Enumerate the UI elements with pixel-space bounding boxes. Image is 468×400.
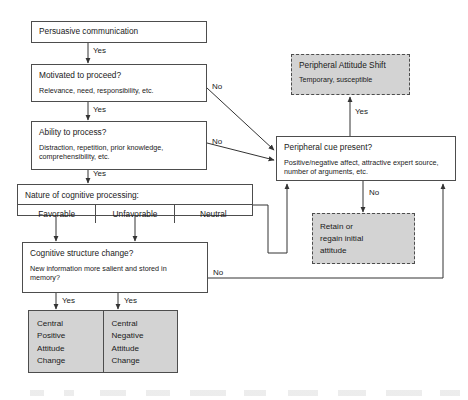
edge-label-yes-peripheral: Yes	[355, 107, 368, 116]
outcome-line: Central	[112, 318, 170, 330]
node-subtitle: Temporary, susceptible	[299, 75, 402, 84]
flowchart-canvas: Persuasive communication Motivated to pr…	[0, 0, 468, 400]
nature-cell-neutral: Neutral	[174, 205, 252, 223]
edge-label-yes-right-outcome: Yes	[124, 296, 137, 305]
edge-label-yes-1: Yes	[93, 46, 106, 55]
outcome-line: Change	[37, 355, 95, 367]
node-subtitle: New information more salient and stored …	[30, 264, 190, 282]
node-retain-or-regain-initial-attitude: Retain or regain initial attitude	[312, 213, 415, 264]
outcome-line: Change	[112, 355, 170, 367]
outcome-line: Attitude	[37, 343, 95, 355]
node-peripheral-attitude-shift: Peripheral Attitude Shift Temporary, sus…	[291, 54, 410, 95]
node-ability-to-process: Ability to process? Distraction, repetit…	[31, 121, 207, 170]
node-peripheral-cue-present: Peripheral cue present? Positive/negativ…	[276, 136, 456, 181]
edge-label-no-ability: No	[212, 137, 222, 146]
edge-label-no-cognitive: No	[213, 268, 223, 277]
retain-line: Retain or	[320, 221, 407, 233]
edge-label-no-peripheral: No	[369, 188, 379, 197]
nature-cell-favorable: Favorable	[18, 205, 95, 223]
node-nature-of-cognitive-processing: Nature of cognitive processing: Favorabl…	[17, 184, 253, 216]
node-title: Cognitive structure change?	[30, 248, 200, 258]
node-title: Ability to process?	[39, 127, 199, 137]
retain-line: attitude	[320, 245, 407, 257]
edge-label-yes-3: Yes	[93, 169, 106, 178]
edge-label-yes-left-outcome: Yes	[62, 296, 75, 305]
nature-cell-unfavorable: Unfavorable	[95, 205, 173, 223]
edge-label-no-motivated: No	[212, 82, 222, 91]
node-persuasive-communication: Persuasive communication	[31, 21, 207, 43]
outcome-line: Positive	[37, 330, 95, 342]
node-title: Peripheral Attitude Shift	[299, 60, 402, 70]
outcome-positive: Central Positive Attitude Change	[29, 311, 103, 372]
edge-neutral-to-peripheral	[253, 184, 287, 253]
node-title: Motivated to proceed?	[39, 70, 199, 80]
node-motivated-to-proceed: Motivated to proceed? Relevance, need, r…	[31, 64, 207, 102]
node-cognitive-structure-change: Cognitive structure change? New informat…	[22, 242, 208, 293]
retain-line: regain initial	[320, 233, 407, 245]
outcome-line: Central	[37, 318, 95, 330]
node-title: Persuasive communication	[39, 26, 199, 36]
node-central-attitude-outcomes: Central Positive Attitude Change Central…	[28, 310, 178, 373]
outcome-line: Negative	[112, 330, 170, 342]
node-subtitle: Positive/negative affect, attractive exp…	[284, 158, 448, 176]
node-title: Nature of cognitive processing:	[18, 185, 252, 205]
outcome-negative: Central Negative Attitude Change	[103, 311, 178, 372]
node-subtitle: Relevance, need, responsibility, etc.	[39, 86, 199, 95]
outcome-line: Attitude	[112, 343, 170, 355]
node-subtitle: Distraction, repetition, prior knowledge…	[39, 143, 199, 161]
edge-label-yes-2: Yes	[93, 105, 106, 114]
caption-strip	[30, 390, 460, 396]
nature-cells-row: Favorable Unfavorable Neutral	[18, 205, 252, 223]
node-title: Peripheral cue present?	[284, 142, 448, 152]
